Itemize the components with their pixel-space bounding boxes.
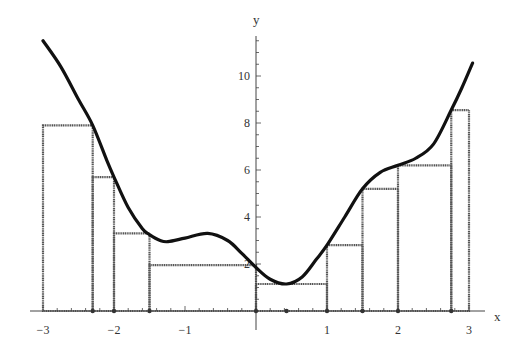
- y-tick-label: 6: [244, 163, 250, 177]
- partition-point-marker: [360, 309, 364, 313]
- x-tick-label: −2: [108, 323, 121, 337]
- partition-point-marker: [254, 309, 258, 313]
- partition-point-marker: [147, 309, 151, 313]
- riemann-rectangle-8: [451, 110, 469, 311]
- function-curve: [43, 41, 473, 284]
- x-tick-labels: −3−2−1123: [37, 323, 472, 337]
- x-tick-label: 3: [466, 323, 472, 337]
- x-tick-label: 1: [324, 323, 330, 337]
- partition-point-marker: [449, 309, 453, 313]
- riemann-rectangle-1: [93, 177, 114, 311]
- y-tick-labels: 246810: [238, 69, 250, 271]
- axes: −3−2−1123 246810 x y: [30, 12, 501, 337]
- riemann-rectangle-2: [114, 233, 150, 311]
- riemann-rectangle-5: [327, 245, 363, 311]
- partition-point-marker: [325, 309, 329, 313]
- x-axis-label: x: [494, 309, 501, 324]
- x-tick-label: 2: [395, 323, 401, 337]
- x-tick-label: −3: [37, 323, 50, 337]
- riemann-rectangle-7: [398, 165, 451, 311]
- x-tick-label: −1: [179, 323, 192, 337]
- riemann-rectangle-3: [150, 265, 257, 311]
- y-tick-label: 8: [244, 116, 250, 130]
- partition-point-marker: [91, 309, 95, 313]
- riemann-rectangle-0: [43, 125, 93, 311]
- riemann-rectangle-4: [256, 284, 327, 311]
- riemann-rectangle-6: [363, 189, 399, 311]
- sample-point-marker: [284, 309, 288, 313]
- y-tick-label: 10: [238, 69, 250, 83]
- y-axis-label: y: [253, 12, 260, 27]
- riemann-sum-chart: −3−2−1123 246810 x y: [0, 0, 521, 353]
- y-tick-label: 4: [244, 210, 250, 224]
- y-axis-ticks: [256, 41, 261, 300]
- partition-point-marker: [396, 309, 400, 313]
- partition-point-marker: [112, 309, 116, 313]
